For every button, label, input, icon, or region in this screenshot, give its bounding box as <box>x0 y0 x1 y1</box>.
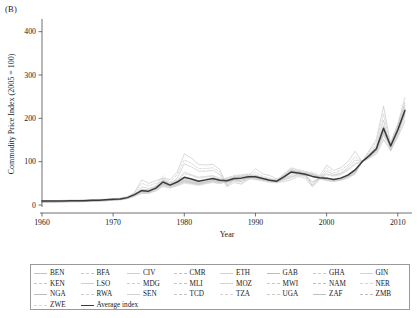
series-line <box>42 105 405 201</box>
legend-item-ben[interactable]: BEN <box>34 268 81 279</box>
legend-label: ETH <box>236 268 250 278</box>
series-line <box>42 101 405 202</box>
legend-item-sen[interactable]: SEN <box>127 289 174 300</box>
legend-label: Average index <box>97 300 139 310</box>
legend-item-nam[interactable]: NAM <box>313 279 360 290</box>
legend-item-zaf[interactable]: ZAF <box>313 289 360 300</box>
legend-swatch <box>220 273 233 274</box>
y-tick-label: 100 <box>24 157 36 166</box>
legend-item-tcd[interactable]: TCD <box>174 289 221 300</box>
series-line <box>42 105 405 200</box>
series-line <box>42 107 405 201</box>
legend-item-mdg[interactable]: MDG <box>127 279 174 290</box>
legend-item-tza[interactable]: TZA <box>220 289 267 300</box>
x-tick-label: 2010 <box>390 218 406 227</box>
legend-swatch <box>34 305 47 306</box>
legend-item-nga[interactable]: NGA <box>34 289 81 300</box>
legend-item-eth[interactable]: ETH <box>220 268 267 279</box>
series-line <box>42 110 405 201</box>
legend-item-mli[interactable]: MLI <box>174 279 221 290</box>
legend-item-lso[interactable]: LSO <box>81 279 128 290</box>
legend-label: GIN <box>376 268 389 278</box>
x-tick-label: 1990 <box>248 218 264 227</box>
legend-label: UGA <box>283 289 299 299</box>
series-line <box>42 116 405 202</box>
legend-swatch <box>34 283 47 284</box>
legend-label: GAB <box>283 268 298 278</box>
series-line <box>42 112 405 201</box>
legend-label: BFA <box>97 268 110 278</box>
legend-item-gha[interactable]: GHA <box>313 268 360 279</box>
line-chart: 0100200300400196019701980199020002010Yea… <box>0 0 418 258</box>
legend-item-ken[interactable]: KEN <box>34 279 81 290</box>
series-line <box>42 110 405 202</box>
legend-label: SEN <box>143 289 157 299</box>
legend-item-zwe[interactable]: ZWE <box>34 300 81 311</box>
legend-item-bfa[interactable]: BFA <box>81 268 128 279</box>
series-line <box>42 120 405 201</box>
legend-item-civ[interactable]: CIV <box>127 268 174 279</box>
series-line <box>42 108 405 201</box>
legend-swatch <box>220 283 233 284</box>
y-tick-label: 400 <box>24 27 36 36</box>
legend-item-cmr[interactable]: CMR <box>174 268 221 279</box>
legend-item-ner[interactable]: NER <box>360 279 407 290</box>
legend-label: BEN <box>50 268 64 278</box>
legend: BENBFACIVCMRETHGABGHAGINKENLSOMDGMLIMOZM… <box>30 264 410 310</box>
legend-label: TCD <box>190 289 204 299</box>
legend-swatch <box>81 283 94 284</box>
legend-label: ZWE <box>50 300 66 310</box>
legend-label: ZAF <box>329 289 343 299</box>
y-tick-label: 200 <box>24 114 36 123</box>
legend-swatch <box>127 294 140 295</box>
legend-label: NAM <box>329 279 346 289</box>
legend-swatch <box>81 294 94 295</box>
x-axis-title: Year <box>220 230 235 239</box>
legend-swatch <box>313 273 326 274</box>
legend-label: RWA <box>97 289 113 299</box>
y-tick-label: 300 <box>24 71 36 80</box>
x-tick-label: 1960 <box>34 218 50 227</box>
legend-swatch <box>360 283 373 284</box>
legend-label: TZA <box>236 289 250 299</box>
legend-item-moz[interactable]: MOZ <box>220 279 267 290</box>
legend-swatch <box>267 273 280 274</box>
legend-swatch <box>81 273 94 274</box>
legend-swatch <box>81 305 94 306</box>
series-line <box>42 111 405 202</box>
legend-label: MWI <box>283 279 299 289</box>
legend-label: MLI <box>190 279 203 289</box>
legend-swatch <box>34 273 47 274</box>
legend-label: LSO <box>97 279 111 289</box>
x-tick-label: 2000 <box>319 218 335 227</box>
series-line <box>42 112 405 201</box>
legend-label: ZMB <box>376 289 392 299</box>
legend-swatch <box>127 283 140 284</box>
legend-swatch <box>360 273 373 274</box>
legend-item-zmb[interactable]: ZMB <box>360 289 407 300</box>
y-axis-title: Commodity Price Index (2005 = 100) <box>7 53 16 174</box>
axes-layer <box>39 19 413 217</box>
legend-swatch <box>313 283 326 284</box>
legend-item-rwa[interactable]: RWA <box>81 289 128 300</box>
legend-label: MOZ <box>236 279 252 289</box>
series-line <box>42 104 405 201</box>
legend-grid: BENBFACIVCMRETHGABGHAGINKENLSOMDGMLIMOZM… <box>31 265 409 310</box>
legend-label: KEN <box>50 279 65 289</box>
legend-swatch <box>174 273 187 274</box>
series-layer <box>42 98 405 203</box>
legend-item-uga[interactable]: UGA <box>267 289 314 300</box>
series-line <box>42 113 405 201</box>
legend-swatch <box>174 294 187 295</box>
legend-swatch <box>360 294 373 295</box>
legend-item-gab[interactable]: GAB <box>267 268 314 279</box>
legend-item-mwi[interactable]: MWI <box>267 279 314 290</box>
figure-panel-b: (B) 010020030040019601970198019902000201… <box>0 0 418 318</box>
legend-item-average-index[interactable]: Average index <box>81 300 174 311</box>
series-line <box>42 111 405 202</box>
series-line <box>42 109 405 202</box>
series-line <box>42 109 405 202</box>
x-tick-label: 1980 <box>177 218 193 227</box>
legend-label: NER <box>376 279 390 289</box>
legend-item-gin[interactable]: GIN <box>360 268 407 279</box>
